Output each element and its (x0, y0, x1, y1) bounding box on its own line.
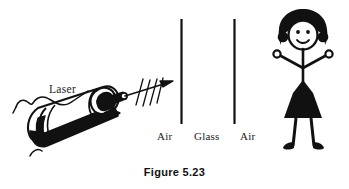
beam-tick-2 (143, 80, 150, 106)
girl-leg-right (311, 118, 314, 146)
label-air-left: Air (157, 131, 172, 142)
laser-front-inner-ring (97, 92, 114, 110)
leader-lower-hook (30, 150, 42, 156)
beam-tick-3 (150, 79, 157, 105)
label-glass: Glass (194, 131, 219, 142)
girl-hair-tuft-right (318, 32, 329, 43)
laser-beam (125, 78, 173, 106)
girl-eye-right (306, 30, 310, 34)
label-air-right: Air (240, 131, 255, 142)
laser-device (28, 86, 127, 146)
girl-eye-left (296, 30, 300, 34)
girl-shoe-right (313, 142, 324, 150)
stick-figure-girl (273, 9, 332, 150)
girl-hair-tuft-left (278, 32, 289, 43)
figure-5-23: Laser Air Glass Air Figure 5.23 (0, 0, 349, 189)
girl-shoe-left (283, 142, 294, 150)
girl-face (289, 21, 318, 50)
girl-arm-left (281, 56, 303, 68)
glass-slab-boundaries (182, 19, 235, 124)
girl-skirt (284, 80, 322, 118)
laser-label: Laser (49, 84, 76, 96)
girl-arm-right (303, 56, 325, 68)
figure-caption: Figure 5.23 (0, 167, 349, 178)
girl-hand-left (273, 50, 280, 57)
girl-leg-left (293, 118, 296, 146)
girl-hand-right (325, 50, 332, 57)
leader-tail-tick (13, 107, 16, 113)
